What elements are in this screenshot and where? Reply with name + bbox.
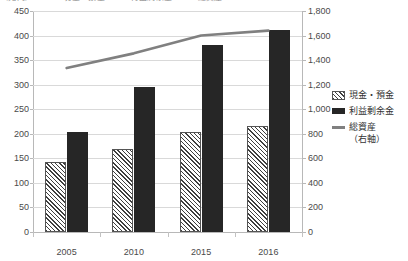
legend-swatch-solid-icon <box>332 108 345 114</box>
plot-area: 050100150200250300350400450 020040060080… <box>33 11 302 232</box>
legend-swatch-hatch-icon <box>332 91 345 100</box>
y-axis-right-tick-label: 600 <box>308 154 323 163</box>
x-axis-tick-mark <box>33 232 34 237</box>
legend-swatch-line-icon <box>332 126 345 129</box>
y-axis-right-tick-mark <box>302 60 306 61</box>
x-axis-tick-mark <box>235 232 236 237</box>
y-axis-right-line <box>302 11 303 233</box>
legend-item: 総資産 <box>332 122 408 133</box>
legend-item: 利益剰余金 <box>332 106 408 117</box>
y-axis-right-tick-mark <box>302 158 306 159</box>
y-axis-right-tick-label: 1,400 <box>308 56 331 65</box>
x-axis-tick-mark <box>100 232 101 237</box>
legend-label: 現金・預金 <box>349 90 394 101</box>
y-axis-left-tick-label: 0 <box>24 228 29 237</box>
legend-item: 現金・預金 <box>332 90 408 101</box>
legend-sublabel: （右軸） <box>349 134 408 145</box>
y-axis-left-tick-label: 50 <box>19 203 29 212</box>
y-axis-right-tick-label: 0 <box>308 228 313 237</box>
y-axis-right-tick-mark <box>302 134 306 135</box>
x-axis-tick-label: 2005 <box>57 247 77 257</box>
x-axis-tick-mark <box>302 232 303 237</box>
y-axis-left-tick-label: 200 <box>14 129 29 138</box>
y-axis-right-tick-mark <box>302 11 306 12</box>
y-axis-left-tick-label: 350 <box>14 56 29 65</box>
y-axis-left-tick-label: 300 <box>14 80 29 89</box>
x-axis-tick-mark <box>168 232 169 237</box>
chart-title-cropped: （兆円） 現金・預金 利益剰余金 総資産 <box>0 0 408 2</box>
legend-label: 総資産 <box>349 122 376 133</box>
y-axis-left-tick-label: 450 <box>14 7 29 16</box>
line-series-total-assets <box>33 11 302 232</box>
y-axis-right-tick-label: 1,000 <box>308 105 331 114</box>
y-axis-right-tick-mark <box>302 85 306 86</box>
y-axis-right-tick-label: 1,800 <box>308 7 331 16</box>
legend-label: 利益剰余金 <box>349 106 394 117</box>
y-axis-left-tick-label: 400 <box>14 31 29 40</box>
y-axis-right-tick-label: 400 <box>308 178 323 187</box>
y-axis-left-tick-label: 100 <box>14 178 29 187</box>
x-axis-tick-label: 2015 <box>191 247 211 257</box>
y-axis-right-tick-mark <box>302 109 306 110</box>
x-axis-tick-label: 2010 <box>124 247 144 257</box>
chart-legend: 現金・預金利益剰余金総資産（右軸） <box>332 90 408 145</box>
y-axis-right-tick-mark <box>302 183 306 184</box>
x-axis-tick-label: 2016 <box>258 247 278 257</box>
y-axis-right-tick-label: 800 <box>308 129 323 138</box>
y-axis-right-tick-mark <box>302 207 306 208</box>
y-axis-right-tick-mark <box>302 36 306 37</box>
y-axis-left-tick-label: 250 <box>14 105 29 114</box>
y-axis-right-tick-label: 1,600 <box>308 31 331 40</box>
y-axis-right-tick-label: 200 <box>308 203 323 212</box>
y-axis-right-tick-label: 1,200 <box>308 80 331 89</box>
y-axis-left-tick-label: 150 <box>14 154 29 163</box>
